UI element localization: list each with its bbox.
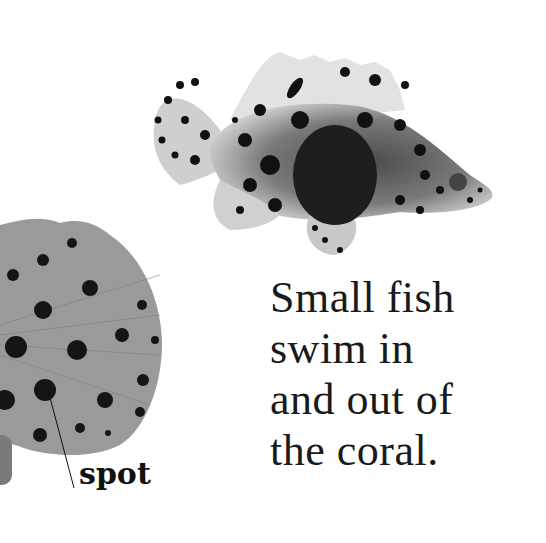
spot-label: spot: [79, 456, 151, 491]
text-line: Small fish: [270, 272, 455, 323]
fin-edge-fragment: [0, 435, 12, 485]
spotted-fish-image: [150, 50, 495, 260]
fin-closeup-image: [0, 215, 165, 460]
text-line: swim in: [270, 323, 455, 374]
body-text: Small fish swim in and out of the coral.: [270, 272, 455, 476]
text-line: the coral.: [270, 425, 455, 476]
text-line: and out of: [270, 374, 455, 425]
